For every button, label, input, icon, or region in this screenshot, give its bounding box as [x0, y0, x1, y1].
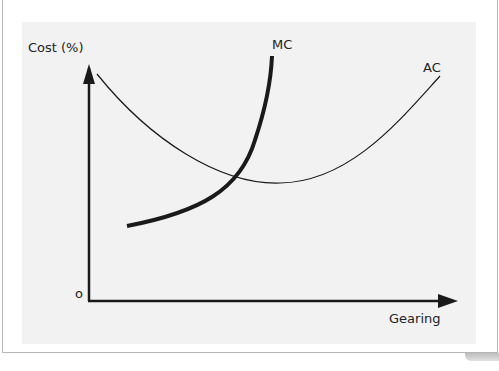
- ac-label: AC: [423, 60, 441, 75]
- y-axis-label: Cost (%): [28, 40, 84, 55]
- cost-of-capital-chart: Cost (%) Gearing o MC AC: [0, 0, 499, 371]
- x-axis-label: Gearing: [389, 311, 441, 326]
- x-axis-arrow-icon: [438, 294, 458, 308]
- origin-label: o: [75, 286, 83, 301]
- mc-curve: [127, 56, 272, 226]
- y-axis-arrow-icon: [83, 64, 95, 84]
- mc-label: MC: [272, 37, 292, 52]
